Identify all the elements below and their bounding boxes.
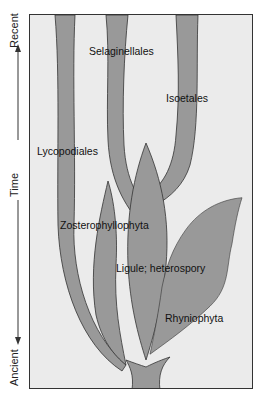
label-rhyniophyta: Rhyniophyta [165,312,223,324]
arrow-down-icon [15,337,21,345]
label-ligule-heterospory: Ligule; heterospory [116,262,205,274]
label-isoetales: Isoetales [166,92,208,104]
axis-time-label: Time [8,173,20,197]
branch-base [126,357,170,389]
branch-shapes [30,15,253,389]
phylogeny-frame: Selaginellales Isoetales Lycopodiales Zo… [29,14,253,389]
label-lycopodiales: Lycopodiales [37,145,98,157]
axis-ancient-label: Ancient [8,349,20,386]
axis-recent-label: Recent [8,13,20,48]
label-zosterophyllophyta: Zosterophyllophyta [60,219,149,231]
time-axis: Recent Time Ancient [0,0,30,396]
time-axis-line [0,0,30,396]
label-selaginellales: Selaginellales [89,45,154,57]
